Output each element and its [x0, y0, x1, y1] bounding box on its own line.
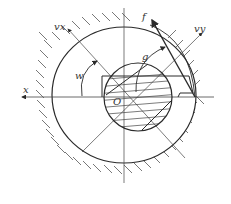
label-f: f	[141, 11, 148, 22]
bore-wall-hatching	[36, 12, 204, 174]
diagram-canvas: x vx vy f g w O	[0, 0, 231, 204]
tool-outline	[102, 76, 193, 97]
g-angle-arc	[136, 47, 165, 92]
label-origin: O	[113, 96, 121, 107]
label-vy: vy	[194, 23, 206, 34]
w-angle-arc	[81, 61, 97, 96]
label-vx: vx	[54, 21, 66, 32]
label-angle-w: w	[75, 70, 84, 81]
label-x-axis: x	[23, 84, 29, 95]
f-vector	[152, 20, 195, 97]
label-g: g	[142, 51, 148, 62]
